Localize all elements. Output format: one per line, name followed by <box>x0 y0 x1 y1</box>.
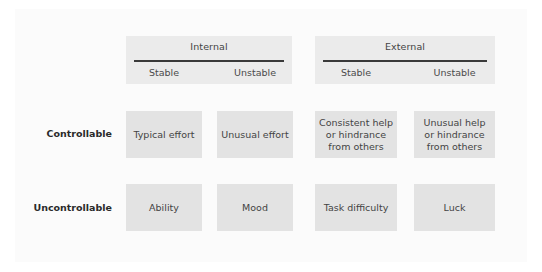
header-internal-title: Internal <box>126 41 292 52</box>
header-external: External Stable Unstable <box>315 36 495 84</box>
cell-uncontrollable-external-stable: Task difficulty <box>315 184 397 231</box>
row-label-controllable: Controllable <box>47 128 112 139</box>
cell-text: Task difficulty <box>324 202 389 214</box>
subheader-internal-stable: Stable <box>126 67 202 78</box>
cell-text: Ability <box>149 202 179 214</box>
cell-text: Typical effort <box>133 129 194 141</box>
cell-text: Luck <box>444 202 466 214</box>
subheader-external-unstable: Unstable <box>414 67 495 78</box>
row-label-uncontrollable: Uncontrollable <box>33 202 112 213</box>
cell-uncontrollable-internal-unstable: Mood <box>217 184 293 231</box>
subheader-internal-unstable: Unstable <box>217 67 293 78</box>
cell-uncontrollable-external-unstable: Luck <box>414 184 495 231</box>
cell-controllable-internal-stable: Typical effort <box>126 111 202 158</box>
cell-uncontrollable-internal-stable: Ability <box>126 184 202 231</box>
cell-text: Unusual effort <box>221 129 288 141</box>
header-external-title: External <box>315 41 495 52</box>
header-internal-divider <box>134 60 284 62</box>
cell-controllable-external-unstable: Unusual help or hindrance from others <box>414 111 495 158</box>
cell-text: Unusual help or hindrance from others <box>424 117 486 153</box>
cell-controllable-internal-unstable: Unusual effort <box>217 111 293 158</box>
header-internal: Internal Stable Unstable <box>126 36 292 84</box>
cell-text: Mood <box>242 202 268 214</box>
cell-controllable-external-stable: Consistent help or hindrance from others <box>315 111 397 158</box>
subheader-external-stable: Stable <box>315 67 397 78</box>
cell-text: Consistent help or hindrance from others <box>319 117 393 153</box>
header-external-divider <box>323 60 487 62</box>
